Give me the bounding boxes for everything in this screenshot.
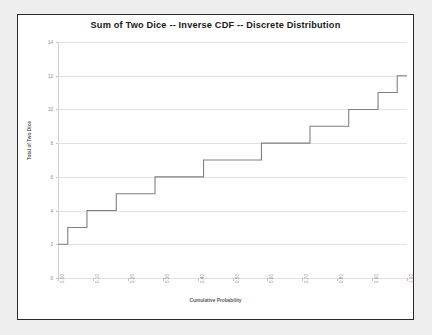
x-tick-mark	[407, 278, 408, 281]
y-tick-label: 6	[50, 174, 53, 179]
x-axis-title: Cumulative Probability	[18, 298, 413, 303]
y-tick-label: 12	[48, 73, 53, 78]
y-tick-label: 8	[50, 141, 53, 146]
x-tick-mark	[128, 278, 129, 281]
chart-frame: Sum of Two Dice -- Inverse CDF -- Discre…	[17, 14, 414, 320]
x-tick-mark	[93, 278, 94, 281]
x-tick-mark	[233, 278, 234, 281]
inverse-cdf-step-line	[58, 42, 407, 278]
x-tick-label: 1.00	[409, 274, 414, 283]
y-tick-label: 10	[48, 107, 53, 112]
y-tick-label: 14	[48, 40, 53, 45]
y-tick-label: 2	[50, 242, 53, 247]
y-tick-label: 4	[50, 208, 53, 213]
x-tick-mark	[58, 278, 59, 281]
x-tick-mark	[163, 278, 164, 281]
chart-title: Sum of Two Dice -- Inverse CDF -- Discre…	[18, 20, 413, 30]
x-tick-mark	[372, 278, 373, 281]
plot-area	[58, 42, 407, 278]
y-axis-title: Total of Two Dice	[27, 121, 32, 160]
x-tick-mark	[198, 278, 199, 281]
y-tick-label: 0	[50, 276, 53, 281]
